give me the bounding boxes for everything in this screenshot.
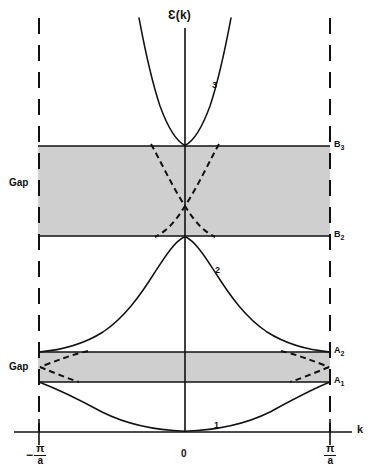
band-label-1: 1 xyxy=(214,421,219,430)
tick-minus-sign: − xyxy=(26,449,34,461)
tick-fraction-left: π a xyxy=(34,443,46,466)
level-subscript: 1 xyxy=(341,380,345,387)
x-tick-label-right: π a xyxy=(324,443,336,466)
tick-numerator: π xyxy=(34,443,46,456)
level-a1-label: A1 xyxy=(334,376,344,387)
lower-gap-shading xyxy=(38,352,330,382)
band-label-2: 2 xyxy=(215,266,220,275)
level-a2-label: A2 xyxy=(334,346,344,357)
level-subscript: 2 xyxy=(341,234,345,241)
origin-tick-label: 0 xyxy=(181,449,187,459)
tick-denominator: a xyxy=(324,456,336,467)
level-b2-label: B2 xyxy=(334,230,344,241)
gap-shading-group xyxy=(38,146,330,382)
band-structure-figure: Ɛ(k) k 0 − π a π a Gap Gap B3 B2 A2 A1 3… xyxy=(0,0,372,471)
level-subscript: 3 xyxy=(341,144,345,151)
tick-numerator: π xyxy=(324,443,336,456)
x-axis-label: k xyxy=(357,424,363,435)
upper-gap-shading xyxy=(38,146,330,236)
tick-denominator: a xyxy=(34,456,46,467)
upper-gap-label: Gap xyxy=(9,178,28,188)
y-axis-label: Ɛ(k) xyxy=(168,9,191,21)
level-b3-label: B3 xyxy=(334,140,344,151)
band-structure-plot xyxy=(0,0,372,471)
x-tick-label-left: − π a xyxy=(26,443,46,466)
level-subscript: 2 xyxy=(341,350,345,357)
band-label-3: 3 xyxy=(212,81,217,90)
lower-gap-label: Gap xyxy=(9,362,28,372)
tick-fraction-right: π a xyxy=(324,443,336,466)
